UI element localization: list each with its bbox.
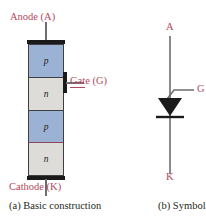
gate-label: Gate (G) xyxy=(70,76,107,87)
symbol-cathode-label: K xyxy=(166,172,174,183)
layer-p-lower-label: p xyxy=(44,122,49,132)
layer-p-top: p xyxy=(29,45,63,78)
layer-n-upper-label: n xyxy=(44,89,49,99)
layer-n-bottom-label: n xyxy=(44,154,49,164)
anode-lead-wire xyxy=(45,22,47,41)
symbol-panel: A G K (b) Symbol xyxy=(106,0,206,216)
gate-label-underline xyxy=(70,87,85,88)
pnpn-layer-stack: p n p n xyxy=(28,44,64,176)
thyristor-symbol-graphic xyxy=(106,0,206,216)
layer-n-bottom: n xyxy=(29,143,63,175)
symbol-gate-label: G xyxy=(197,84,205,95)
symbol-anode-label: A xyxy=(166,22,174,33)
construction-caption: (a) Basic construction xyxy=(9,201,101,212)
layer-n-upper: n xyxy=(29,78,63,111)
thyristor-figure: Anode (A) p n p n Gate (G) Cathode (K) (… xyxy=(0,0,206,216)
symbol-triangle-icon xyxy=(158,98,182,116)
layer-p-top-label: p xyxy=(44,56,49,66)
layer-p-lower: p xyxy=(29,111,63,143)
cathode-label: Cathode (K) xyxy=(9,182,61,193)
anode-label: Anode (A) xyxy=(10,12,55,23)
symbol-caption: (b) Symbol xyxy=(158,201,206,212)
construction-panel: Anode (A) p n p n Gate (G) Cathode (K) (… xyxy=(0,0,106,216)
